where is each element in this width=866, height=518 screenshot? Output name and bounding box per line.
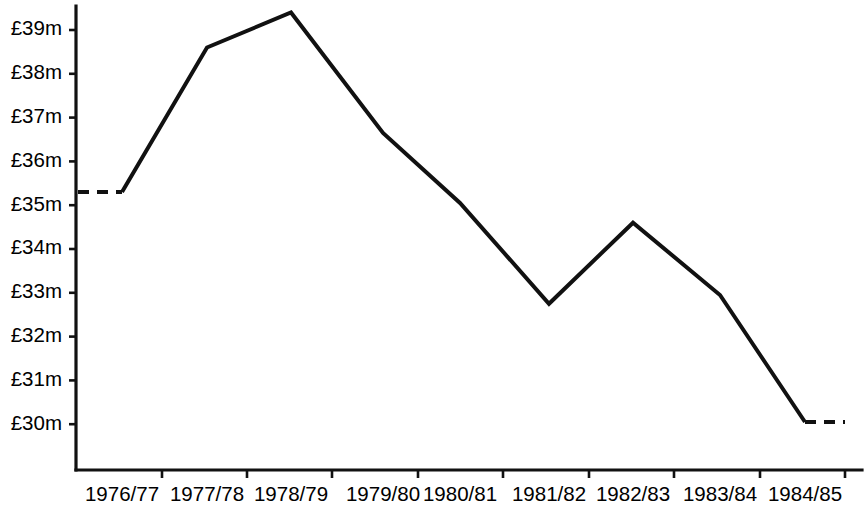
- x-tick-label: 1982/83: [596, 482, 670, 505]
- x-axis: [76, 469, 862, 478]
- chart-container: £39m£38m£37m£36m£35m£34m£33m£32m£31m£30m…: [0, 0, 866, 518]
- y-tick-label: £38m: [11, 60, 62, 83]
- x-tick-label: 1984/85: [768, 482, 842, 505]
- y-tick-label: £35m: [11, 192, 62, 215]
- y-axis: [69, 6, 77, 470]
- x-tick-label: 1983/84: [683, 482, 757, 505]
- y-tick-label: £37m: [11, 104, 62, 127]
- y-tick-label: £32m: [11, 323, 62, 346]
- y-tick-label: £39m: [11, 16, 62, 39]
- data-series-group: [78, 12, 845, 422]
- series-line: [122, 12, 805, 422]
- x-tick-label: 1981/82: [512, 482, 586, 505]
- y-tick-label: £33m: [11, 279, 62, 302]
- y-tick-label: £31m: [11, 367, 62, 390]
- y-axis-tick-labels: £39m£38m£37m£36m£35m£34m£33m£32m£31m£30m: [11, 16, 62, 433]
- x-tick-label: 1979/80: [346, 482, 420, 505]
- y-tick-label: £30m: [11, 411, 62, 434]
- x-tick-label: 1978/79: [254, 482, 328, 505]
- line-chart: £39m£38m£37m£36m£35m£34m£33m£32m£31m£30m…: [0, 0, 866, 518]
- x-axis-tick-labels: 1976/771977/781978/791979/801980/811981/…: [85, 482, 842, 505]
- x-tick-label: 1977/78: [170, 482, 244, 505]
- y-tick-label: £36m: [11, 148, 62, 171]
- x-tick-label: 1976/77: [85, 482, 159, 505]
- y-tick-label: £34m: [11, 235, 62, 258]
- x-tick-label: 1980/81: [423, 482, 497, 505]
